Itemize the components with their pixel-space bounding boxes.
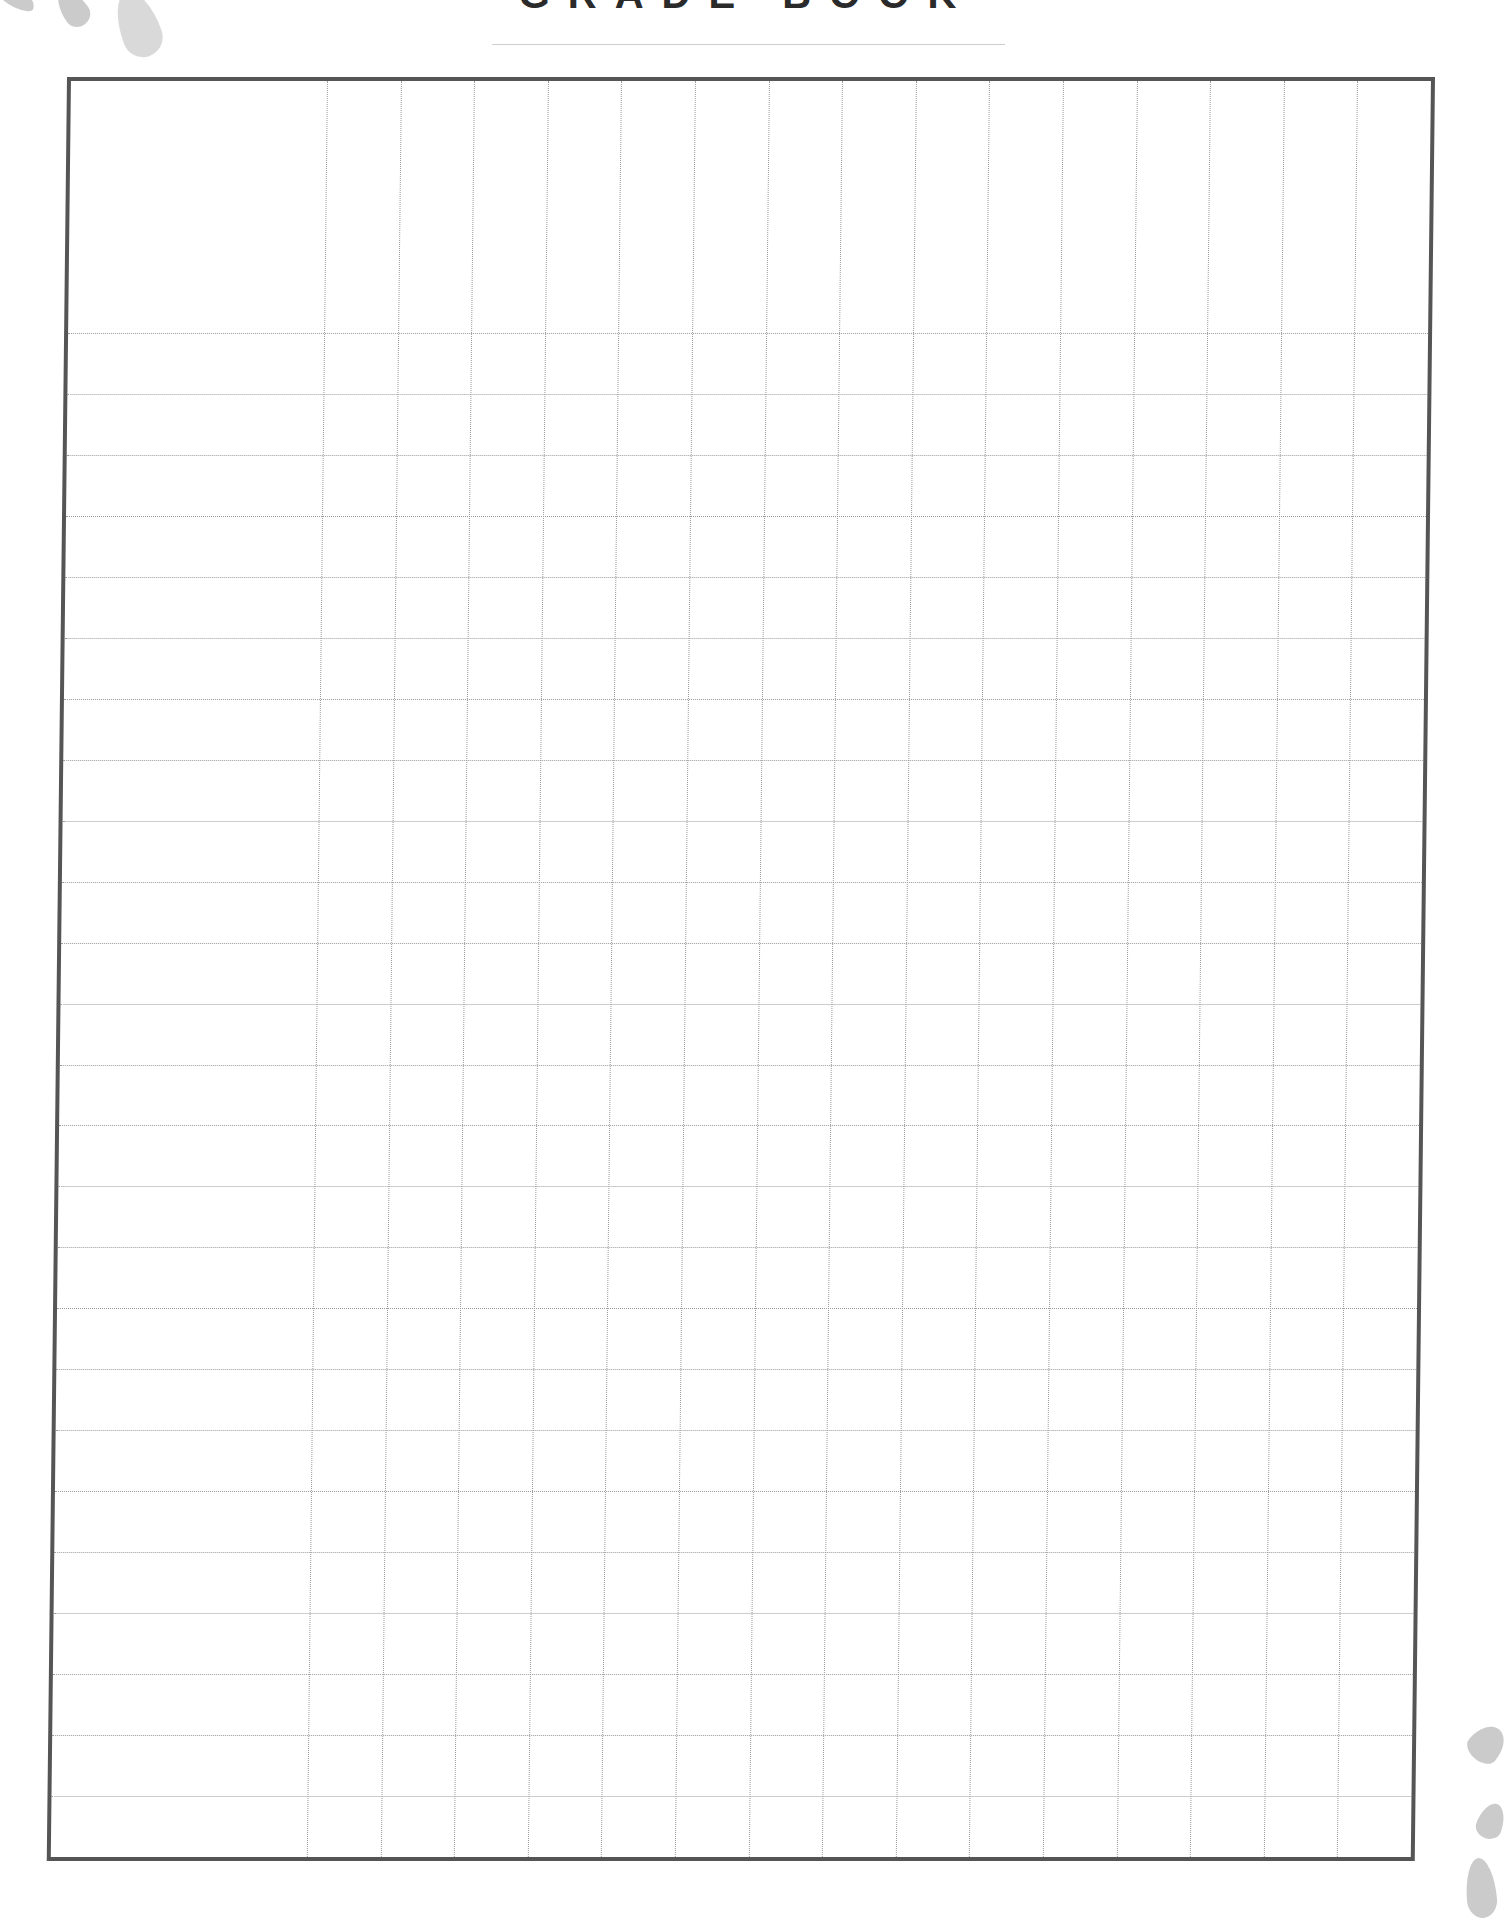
row-divider	[67, 394, 1427, 395]
row-divider	[64, 699, 1424, 700]
row-divider	[68, 333, 1428, 334]
row-divider	[67, 455, 1427, 456]
row-divider	[61, 943, 1421, 944]
row-divider	[58, 1247, 1418, 1248]
row-divider	[58, 1186, 1418, 1187]
row-divider	[59, 1125, 1419, 1126]
row-divider	[56, 1369, 1416, 1370]
column-divider	[1190, 81, 1211, 1857]
row-divider	[60, 1004, 1420, 1005]
row-divider	[55, 1491, 1415, 1492]
row-divider	[57, 1308, 1417, 1309]
column-divider	[896, 81, 917, 1857]
row-divider	[65, 577, 1425, 578]
row-divider	[60, 1065, 1420, 1066]
row-divider	[63, 760, 1423, 761]
column-divider	[1337, 81, 1358, 1857]
title-divider	[492, 44, 1005, 45]
leaf-icon	[1473, 1800, 1508, 1843]
column-divider	[1116, 81, 1137, 1857]
column-divider	[969, 81, 990, 1857]
row-divider	[51, 1796, 1411, 1797]
column-divider	[748, 81, 769, 1857]
row-divider	[54, 1613, 1414, 1614]
row-divider	[54, 1552, 1414, 1553]
row-divider	[52, 1735, 1412, 1736]
row-divider	[56, 1430, 1416, 1431]
page-title: GRADE BOOK	[0, 0, 1493, 17]
column-divider	[528, 81, 549, 1857]
column-divider	[822, 81, 843, 1857]
column-divider	[1043, 81, 1064, 1857]
row-divider	[65, 638, 1425, 639]
leaf-icon	[1462, 1719, 1508, 1770]
row-divider	[62, 882, 1422, 883]
column-divider	[454, 81, 475, 1857]
row-divider	[53, 1674, 1413, 1675]
row-divider	[66, 516, 1426, 517]
column-divider	[601, 81, 622, 1857]
column-divider	[675, 81, 696, 1857]
grade-grid	[47, 77, 1435, 1861]
column-divider	[380, 81, 401, 1857]
row-divider	[63, 821, 1423, 822]
column-divider	[1264, 81, 1285, 1857]
column-divider	[307, 81, 328, 1857]
leaf-icon	[1463, 1857, 1498, 1919]
